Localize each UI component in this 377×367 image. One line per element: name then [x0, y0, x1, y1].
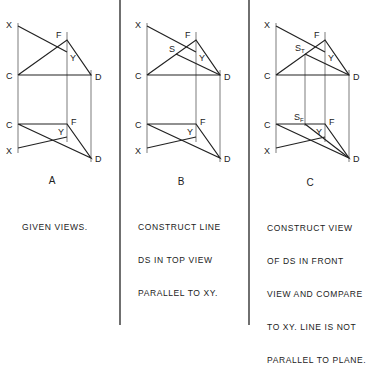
svg-text:D: D: [95, 72, 102, 82]
svg-text:X: X: [135, 20, 141, 30]
svg-text:Y: Y: [199, 53, 205, 63]
svg-text:C: C: [264, 120, 271, 130]
svg-text:F: F: [329, 117, 335, 127]
caption-line: PARALLEL TO PLANE.: [267, 355, 366, 366]
caption-line: PARALLEL TO XY.: [138, 288, 221, 299]
svg-text:D: D: [224, 154, 231, 164]
svg-text:F: F: [56, 30, 62, 40]
panel-b-letter: B: [151, 176, 211, 187]
svg-text:C: C: [6, 71, 13, 81]
panel-a-front-view: [18, 124, 91, 158]
svg-text:F: F: [200, 117, 206, 127]
panel-b-front-view: [147, 124, 220, 158]
svg-text:Y: Y: [187, 127, 193, 137]
svg-text:S: S: [169, 44, 175, 54]
svg-text:T: T: [301, 48, 305, 54]
svg-text:D: D: [224, 72, 231, 82]
svg-text:F: F: [300, 117, 304, 123]
svg-text:Y: Y: [70, 53, 76, 63]
panel-c-top-view: [276, 26, 349, 75]
svg-text:D: D: [353, 154, 360, 164]
svg-text:D: D: [95, 154, 102, 164]
caption-line: VIEW AND COMPARE: [267, 289, 366, 300]
caption-line: CONSTRUCT LINE: [138, 222, 221, 233]
svg-text:C: C: [6, 120, 13, 130]
panel-b-labels: X F S Y C D C F Y X D: [135, 20, 231, 164]
svg-text:D: D: [353, 72, 360, 82]
svg-text:X: X: [6, 146, 12, 156]
svg-text:X: X: [135, 146, 141, 156]
caption-line: GIVEN VIEWS.: [22, 222, 88, 233]
panel-a-labels: X F Y C D C F Y X D: [6, 20, 102, 164]
panel-c-front-view: [276, 124, 349, 158]
svg-text:F: F: [185, 30, 191, 40]
panel-b-top-view: [147, 26, 220, 75]
panel-c-caption: CONSTRUCT VIEW OF DS IN FRONT VIEW AND C…: [267, 201, 366, 367]
svg-text:X: X: [264, 146, 270, 156]
svg-text:F: F: [314, 30, 320, 40]
svg-text:Y: Y: [316, 127, 322, 137]
panel-b-caption: CONSTRUCT LINE DS IN TOP VIEW PARALLEL T…: [138, 200, 221, 310]
caption-line: TO XY. LINE IS NOT: [267, 322, 366, 333]
caption-line: DS IN TOP VIEW: [138, 255, 221, 266]
svg-text:C: C: [135, 120, 142, 130]
panel-c-letter: C: [280, 177, 340, 188]
panel-a-top-view: [18, 26, 91, 75]
panel-a-caption: GIVEN VIEWS.: [22, 200, 88, 244]
svg-text:C: C: [135, 71, 142, 81]
svg-text:X: X: [6, 20, 12, 30]
svg-text:F: F: [71, 117, 77, 127]
caption-line: OF DS IN FRONT: [267, 256, 366, 267]
svg-text:X: X: [264, 20, 270, 30]
caption-line: CONSTRUCT VIEW: [267, 223, 366, 234]
svg-text:Y: Y: [328, 53, 334, 63]
panel-c-labels: X F S T Y C D C S F F Y X D: [264, 20, 360, 164]
svg-text:C: C: [264, 71, 271, 81]
panel-a-letter: A: [22, 175, 82, 186]
svg-text:Y: Y: [58, 127, 64, 137]
